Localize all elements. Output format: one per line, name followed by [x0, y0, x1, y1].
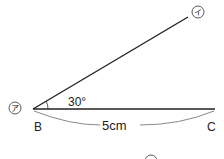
- angle-arc: [46, 101, 48, 109]
- angle-label: 30°: [68, 95, 86, 109]
- diagram: 30° 5cm B C ア イ: [0, 0, 224, 159]
- ray-b-i: [33, 17, 188, 109]
- vertex-c-label: C: [207, 120, 216, 134]
- dimension-arc-left: [34, 111, 100, 125]
- mark-a: ア: [9, 102, 21, 114]
- mark-u: [145, 155, 157, 159]
- mark-a-label: ア: [11, 104, 19, 113]
- vertex-b-label: B: [34, 120, 42, 134]
- length-label: 5cm: [102, 118, 127, 133]
- mark-i-label: イ: [194, 8, 202, 17]
- mark-i: イ: [192, 6, 204, 18]
- dimension-arc-right: [140, 111, 214, 125]
- mark-u-circle: [145, 155, 157, 159]
